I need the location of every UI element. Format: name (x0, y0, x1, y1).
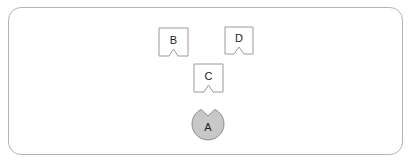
node-a: A (192, 110, 224, 140)
node-a-label: A (204, 121, 212, 133)
node-d: D (225, 27, 253, 54)
node-d-label: D (235, 32, 243, 44)
diagram-canvas: B D C A (0, 0, 411, 160)
node-c: C (194, 64, 223, 92)
node-c-label: C (205, 70, 213, 82)
node-b: B (159, 28, 188, 56)
node-b-label: B (170, 34, 177, 46)
